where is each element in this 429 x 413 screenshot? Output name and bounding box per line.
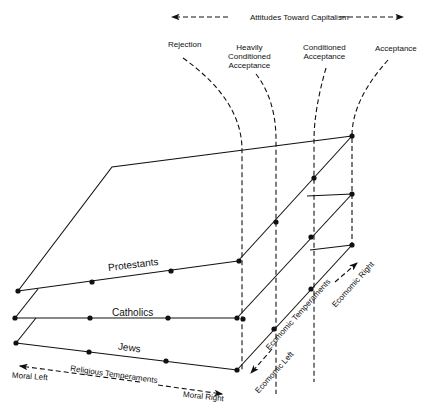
label-heavily-conditioned: Heavily Conditioned Acceptance	[228, 43, 271, 70]
label-acceptance: Acceptance	[375, 44, 417, 53]
diagram-graphics	[0, 0, 429, 413]
conditioned-curve	[314, 68, 326, 382]
acceptance-curve	[352, 60, 388, 245]
label-rejection: Rejection	[168, 40, 201, 49]
rejection-curve	[183, 58, 242, 370]
label-conditioned: Conditioned Acceptance	[303, 43, 346, 61]
chart-title: Attitudes Toward Capitalism	[250, 13, 349, 22]
label-catholics: Catholics	[112, 307, 153, 318]
diagram: Attitudes Toward Capitalism Rejection He…	[0, 0, 429, 413]
protestants-diag	[238, 136, 352, 261]
